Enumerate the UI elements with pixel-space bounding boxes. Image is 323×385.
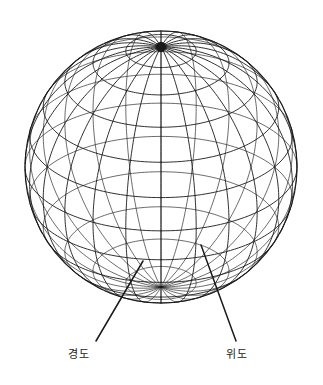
north-pole-node	[156, 42, 166, 52]
longitude-label: 경도	[68, 345, 89, 361]
sphere-wireframe	[25, 31, 297, 303]
latitude-label: 위도	[226, 345, 247, 361]
globe-diagram	[0, 0, 323, 385]
meridian-lines	[25, 31, 297, 303]
